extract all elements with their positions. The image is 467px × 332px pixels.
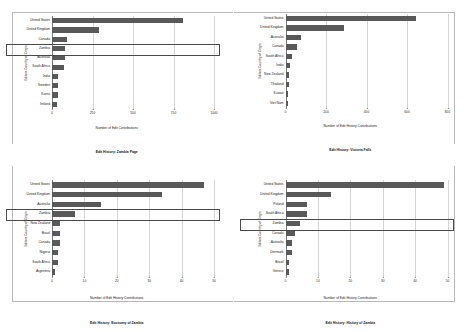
x-tick-label: 20 bbox=[349, 279, 353, 283]
bar-row: Argentina bbox=[52, 269, 214, 274]
x-axis-label: Number of Edit History Contributions bbox=[234, 124, 467, 128]
bar-row: Brazil bbox=[286, 260, 448, 265]
bar bbox=[286, 221, 301, 226]
x-tick-label: 40 bbox=[413, 279, 417, 283]
chart-caption: Edit History: Economy of Zambia bbox=[0, 321, 234, 325]
bar bbox=[52, 102, 57, 107]
bar bbox=[286, 101, 289, 106]
bar bbox=[52, 37, 67, 42]
bar-row: United States bbox=[286, 182, 448, 187]
category-label: Ireland bbox=[40, 103, 50, 106]
bar bbox=[286, 182, 445, 187]
bar-row: Canada bbox=[286, 231, 448, 236]
x-tick-label: 0 bbox=[285, 279, 287, 283]
bar-row: Australia bbox=[52, 55, 214, 60]
category-label: Sweden bbox=[38, 84, 50, 87]
bar-row: South Africa bbox=[52, 260, 214, 265]
category-label: India bbox=[43, 75, 50, 78]
x-tick-label: 1000 bbox=[210, 111, 217, 115]
category-label: Greece bbox=[273, 270, 284, 273]
bar-row: Canada bbox=[52, 240, 214, 245]
bar bbox=[286, 91, 289, 96]
category-label: United States bbox=[264, 183, 284, 186]
chart-caption: Edit History: Zambia Page bbox=[0, 150, 234, 154]
x-tick-label: 10 bbox=[83, 279, 87, 283]
plot-area: 01020304050United StatesUnited KingdomPo… bbox=[286, 180, 448, 277]
bar-row: United Kingdom bbox=[52, 192, 214, 197]
x-tick-label: 500 bbox=[130, 111, 135, 115]
bar bbox=[286, 44, 297, 49]
category-label: United Kingdom bbox=[260, 26, 283, 29]
category-label: United Kingdom bbox=[27, 193, 50, 196]
bar-row: United Kingdom bbox=[286, 192, 448, 197]
x-tick-label: 400 bbox=[364, 110, 369, 114]
chart-economy-of-zambia: Editors Country of Origin01020304050Unit… bbox=[0, 166, 234, 332]
category-label: Australia bbox=[271, 36, 284, 39]
bar bbox=[52, 46, 65, 51]
category-label: United States bbox=[264, 17, 284, 20]
bar-row: Zambia bbox=[52, 46, 214, 51]
category-label: Zambia bbox=[39, 47, 50, 50]
bar bbox=[52, 83, 58, 88]
x-tick-label: 50 bbox=[212, 279, 216, 283]
bar bbox=[286, 250, 292, 255]
category-label: Zambia bbox=[39, 212, 50, 215]
category-label: Thailand bbox=[271, 83, 284, 86]
bar-row: India bbox=[52, 74, 214, 79]
bar-row: Viet Nam bbox=[286, 101, 448, 106]
category-label: Viet Nam bbox=[270, 102, 284, 105]
bar-row: New Zealand bbox=[286, 72, 448, 77]
bar bbox=[286, 54, 292, 59]
plot-area: 0200400600800United StatesUnited Kingdom… bbox=[286, 14, 448, 108]
x-tick-label: 250 bbox=[90, 111, 95, 115]
bar bbox=[286, 25, 345, 30]
chart-panel-economy-of-zambia: Editors Country of Origin01020304050Unit… bbox=[0, 166, 234, 332]
bar-row: India bbox=[286, 63, 448, 68]
x-tick-label: 750 bbox=[171, 111, 176, 115]
category-label: Zambia bbox=[273, 222, 284, 225]
bar-row: United Kingdom bbox=[286, 25, 448, 30]
bar bbox=[52, 240, 60, 245]
bar bbox=[52, 55, 65, 60]
bar-row: Sweden bbox=[52, 83, 214, 88]
category-label: Nigeria bbox=[40, 251, 50, 254]
category-label: New Zealand bbox=[264, 73, 283, 76]
x-tick-label: 40 bbox=[180, 279, 184, 283]
chart-history-of-zambia: Editors Country of Origin01020304050Unit… bbox=[234, 166, 467, 332]
chart-panel-zambia-page: Editors Country of Origin02505007501000U… bbox=[0, 0, 234, 166]
chart-caption: Edit History: Victoria Falls bbox=[234, 148, 467, 152]
bar bbox=[52, 269, 55, 274]
bar-row: South Africa bbox=[52, 65, 214, 70]
bar-row: Denmark bbox=[286, 250, 448, 255]
category-label: Brazil bbox=[42, 232, 50, 235]
bar-row: Canada bbox=[286, 44, 448, 49]
chart-victoria-falls: Editors Country of Origin0200400600800Un… bbox=[234, 0, 467, 166]
x-tick-label: 30 bbox=[381, 279, 385, 283]
y-axis-label: Editors Country of Origin bbox=[24, 211, 28, 246]
bar bbox=[52, 260, 58, 265]
bar bbox=[52, 192, 162, 197]
bar bbox=[52, 221, 60, 226]
category-label: New Zealand bbox=[31, 222, 50, 225]
bar bbox=[52, 231, 60, 236]
plot-area: 02505007501000United StatesUnited Kingdo… bbox=[52, 16, 214, 109]
category-label: Poland bbox=[273, 203, 283, 206]
bar-row: Greece bbox=[286, 269, 448, 274]
chart-panel-victoria-falls: Editors Country of Origin0200400600800Un… bbox=[234, 0, 467, 166]
x-tick-label: 600 bbox=[404, 110, 409, 114]
category-label: Australia bbox=[271, 241, 284, 244]
bar bbox=[52, 202, 101, 207]
bar bbox=[286, 82, 289, 87]
bar-row: Australia bbox=[286, 240, 448, 245]
category-label: Korea bbox=[41, 93, 50, 96]
bar bbox=[286, 35, 301, 40]
category-label: Argentina bbox=[36, 270, 50, 273]
category-label: Canada bbox=[272, 45, 284, 48]
category-label: Australia bbox=[37, 203, 50, 206]
x-tick-label: 30 bbox=[147, 279, 151, 283]
bar-row: United States bbox=[52, 18, 214, 23]
bar-row: Kuwait bbox=[286, 91, 448, 96]
bar-row: Ireland bbox=[52, 102, 214, 107]
category-label: South Africa bbox=[266, 212, 284, 215]
bar-row: Korea bbox=[52, 92, 214, 97]
